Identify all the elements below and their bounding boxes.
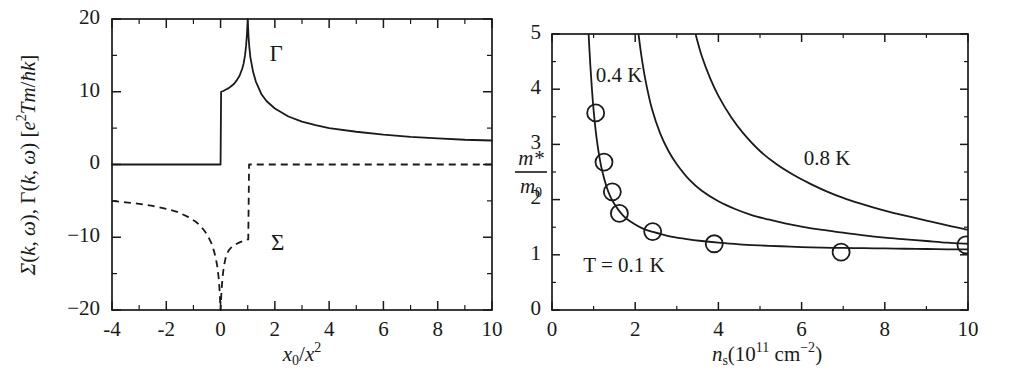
x-tick-label: 8 [880,317,891,341]
x-tick-label: 10 [958,317,979,341]
y-tick-label: 0 [90,150,101,174]
y-tick-label: 3 [531,130,542,154]
x-tick-label: 8 [432,317,443,341]
temp-label-0p8K: 0.8 K [804,146,851,170]
svg-text:ns(1011 cm−2): ns(1011 cm−2) [712,340,822,368]
data-point-circle [587,104,604,121]
right-temperature-labels: 0.4 K0.8 KT = 0.1 K [583,63,850,277]
x-tick-label: 6 [378,317,389,341]
y-tick-label: 5 [531,20,542,44]
left-plot-svg: Σ(k, ω), Γ(k, ω) [e2Tm/ħk] x0/x2 -4-2024… [0,0,505,385]
temperature-curve-0p4K [639,34,968,244]
data-point-circle [833,244,850,261]
figure-container: Σ(k, ω), Γ(k, ω) [e2Tm/ħk] x0/x2 -4-2024… [0,0,1011,385]
gamma-curve-label: Γ [270,41,283,66]
sigma-curve [112,165,492,311]
panel-left-self-energy: Σ(k, ω), Γ(k, ω) [e2Tm/ħk] x0/x2 -4-2024… [0,0,505,385]
y-tick-label: 2 [531,185,542,209]
temp-label-0p1K: T = 0.1 K [583,253,664,277]
x-tick-label: 10 [482,317,503,341]
left-curve-labels: ΓΣ [270,41,285,255]
x-tick-label: 4 [324,317,335,341]
x-tick-label: -4 [103,317,121,341]
left-y-axis-title: Σ(k, ω), Γ(k, ω) [e2Tm/ħk] [14,55,40,277]
data-point-circle [957,236,974,253]
x-tick-label: 2 [630,317,641,341]
left-axis-tick-labels: -4-20246810−20−1001020 [67,5,502,341]
temperature-curve-0p8K [696,34,968,230]
sigma-curve-label: Σ [271,230,284,255]
y-tick-label: −20 [67,296,100,320]
data-point-circle [611,205,628,222]
gamma-curve [112,19,492,165]
y-tick-label: 20 [79,5,100,29]
data-point-circle [604,183,621,200]
x-tick-label: 0 [547,317,558,341]
x-tick-label: 4 [713,317,724,341]
right-x-axis-title: ns(1011 cm−2) [712,340,822,368]
y-tick-label: 4 [531,75,542,99]
right-plot-svg: m* m0 ns(1011 cm−2) 0246810012345 [505,0,1011,385]
y-tick-label: 10 [79,78,100,102]
panel-right-effective-mass: m* m0 ns(1011 cm−2) 0246810012345 [505,0,1011,385]
y-tick-label: 1 [531,241,542,265]
y-tick-label: −10 [67,223,100,247]
data-point-circle [596,154,613,171]
svg-text:Σ(k, ω), Γ(k, ω) [e2Tm/ħk]: Σ(k, ω), Γ(k, ω) [e2Tm/ħk] [14,55,40,277]
temp-label-0p4K: 0.4 K [596,63,643,87]
x-tick-label: -2 [158,317,176,341]
svg-text:x0/x2: x0/x2 [282,340,322,368]
experimental-data-points [587,104,974,260]
y-tick-label: 0 [531,296,542,320]
x-tick-label: 2 [270,317,281,341]
left-x-axis-title: x0/x2 [282,340,322,368]
x-tick-label: 0 [215,317,226,341]
data-point-circle [706,235,723,252]
x-tick-label: 6 [796,317,807,341]
